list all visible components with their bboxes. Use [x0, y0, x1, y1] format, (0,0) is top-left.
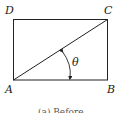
angle-arc — [62, 51, 70, 78]
vertex-label-b: B — [106, 83, 115, 96]
vertex-label-a: A — [4, 83, 13, 96]
vertex-label-d: D — [4, 4, 14, 17]
angle-theta-label: θ — [72, 56, 79, 69]
figure-caption: (a) Before — [38, 107, 84, 113]
vertex-label-c: C — [104, 4, 113, 17]
diagonal-ac — [14, 20, 108, 81]
rectangle-diagram: D C A B θ (a) Before — [0, 0, 120, 113]
